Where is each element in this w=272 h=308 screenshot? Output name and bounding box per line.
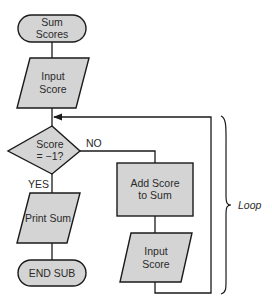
decision-label-line1: Score: [36, 138, 64, 150]
add-label-line1: Add Score: [130, 177, 179, 189]
flowchart-diagram: Sum Scores Input Score Score = −1? NO YE…: [0, 0, 272, 308]
input-score-parallelogram: Input Score: [17, 58, 89, 108]
print-label: Print Sum: [25, 212, 71, 224]
start-label-line2: Scores: [36, 28, 69, 40]
no-branch-label: NO: [86, 137, 102, 149]
add-score-process: Add Score to Sum: [117, 163, 193, 216]
edge-decision-no: [80, 151, 155, 163]
input2-label-line2: Score: [142, 258, 170, 270]
input1-label-line1: Input: [41, 70, 64, 82]
end-label: END SUB: [29, 267, 76, 279]
add-label-line2: to Sum: [138, 189, 172, 201]
loop-label: Loop: [238, 199, 262, 211]
decision-label-line2: = −1?: [37, 150, 64, 162]
start-terminal: Sum Scores: [18, 15, 86, 42]
input2-label-line1: Input: [144, 245, 167, 257]
input1-label-line2: Score: [39, 83, 67, 95]
yes-branch-label: YES: [28, 178, 49, 190]
print-sum-parallelogram: Print Sum: [17, 193, 80, 243]
input-score-loop-parallelogram: Input Score: [120, 233, 192, 282]
decision-diamond: Score = −1?: [8, 126, 80, 174]
end-terminal: END SUB: [18, 260, 86, 286]
start-label-line1: Sum: [41, 16, 63, 28]
loop-brace: [221, 116, 231, 294]
